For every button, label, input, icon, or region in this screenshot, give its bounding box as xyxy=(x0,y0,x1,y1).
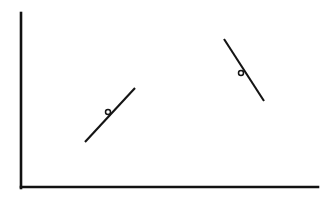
series-segment-2 xyxy=(224,39,264,101)
series-group xyxy=(85,39,264,142)
data-point-marker xyxy=(239,71,244,76)
segment-line xyxy=(85,88,135,142)
plot-canvas xyxy=(0,0,332,199)
chart-figure xyxy=(0,0,332,199)
series-segment-1 xyxy=(85,88,135,142)
data-point-marker xyxy=(106,110,111,115)
axes-group xyxy=(21,13,318,188)
segment-line xyxy=(224,39,264,101)
